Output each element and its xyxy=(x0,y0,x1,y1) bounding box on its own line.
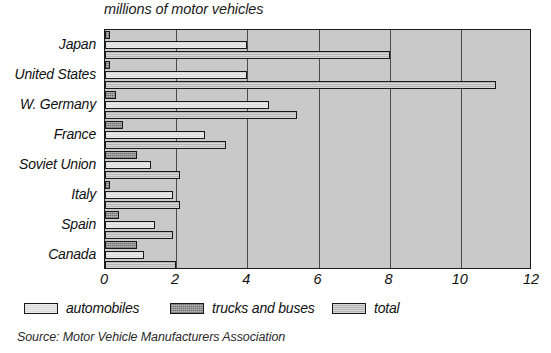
bar-trucks-and-buses-united-states xyxy=(105,61,110,69)
x-axis-tick-labels: 024681012 xyxy=(104,271,551,293)
bar-automobiles-soviet-union xyxy=(105,161,151,169)
bar-trucks-and-buses-w-germany xyxy=(105,91,116,99)
bar-automobiles-france xyxy=(105,131,205,139)
legend-label-total: total xyxy=(374,300,399,316)
bar-group xyxy=(105,210,530,240)
chart-title: millions of motor vehicles xyxy=(104,1,263,17)
category-label-w-germany: W. Germany xyxy=(20,96,96,112)
bar-automobiles-canada xyxy=(105,251,144,259)
category-axis-labels: JapanUnited StatesW. GermanyFranceSoviet… xyxy=(0,29,100,269)
bar-automobiles-united-states xyxy=(105,71,247,79)
bar-total-w-germany xyxy=(105,111,297,119)
bar-trucks-and-buses-spain xyxy=(105,211,119,219)
bar-trucks-and-buses-soviet-union xyxy=(105,151,137,159)
category-label-france: France xyxy=(54,126,96,142)
bar-group xyxy=(105,180,530,210)
category-label-united-states: United States xyxy=(15,66,96,82)
bar-trucks-and-buses-canada xyxy=(105,241,137,249)
bar-total-japan xyxy=(105,51,390,59)
bar-group xyxy=(105,60,530,90)
x-tick-label-12: 12 xyxy=(523,271,539,287)
legend-item-trucks-and-buses: trucks and buses xyxy=(170,300,315,316)
x-tick-label-4: 4 xyxy=(242,271,250,287)
x-tick-label-0: 0 xyxy=(100,271,108,287)
bar-trucks-and-buses-italy xyxy=(105,181,110,189)
bar-automobiles-spain xyxy=(105,221,155,229)
legend-swatch-automobiles xyxy=(24,303,58,314)
legend-item-total: total xyxy=(332,300,399,316)
legend-label-trucks-and-buses: trucks and buses xyxy=(212,300,315,316)
category-label-soviet-union: Soviet Union xyxy=(19,156,96,172)
category-label-japan: Japan xyxy=(59,36,96,52)
legend-item-automobiles: automobiles xyxy=(24,300,139,316)
chart-figure: millions of motor vehicles JapanUnited S… xyxy=(0,0,551,353)
x-tick-label-6: 6 xyxy=(313,271,321,287)
x-tick-label-8: 8 xyxy=(385,271,393,287)
bar-group xyxy=(105,240,530,270)
category-label-italy: Italy xyxy=(71,186,96,202)
source-note: Source: Motor Vehicle Manufacturers Asso… xyxy=(17,330,285,344)
bar-group xyxy=(105,150,530,180)
bar-trucks-and-buses-japan xyxy=(105,31,110,39)
x-tick-label-10: 10 xyxy=(452,271,468,287)
bar-automobiles-w-germany xyxy=(105,101,269,109)
bar-total-france xyxy=(105,141,226,149)
legend-swatch-trucks-and-buses xyxy=(170,303,204,314)
bar-total-united-states xyxy=(105,81,496,89)
bar-group xyxy=(105,120,530,150)
legend-swatch-total xyxy=(332,303,366,314)
plot-area xyxy=(104,29,531,269)
bar-automobiles-japan xyxy=(105,41,247,49)
bar-automobiles-italy xyxy=(105,191,173,199)
bar-total-italy xyxy=(105,201,180,209)
category-label-canada: Canada xyxy=(48,246,96,262)
bar-trucks-and-buses-france xyxy=(105,121,123,129)
bar-total-spain xyxy=(105,231,173,239)
bar-group xyxy=(105,30,530,60)
category-label-spain: Spain xyxy=(61,216,96,232)
bar-total-soviet-union xyxy=(105,171,180,179)
x-tick-label-2: 2 xyxy=(171,271,179,287)
bar-group xyxy=(105,90,530,120)
legend-label-automobiles: automobiles xyxy=(66,300,139,316)
bar-total-canada xyxy=(105,261,176,269)
